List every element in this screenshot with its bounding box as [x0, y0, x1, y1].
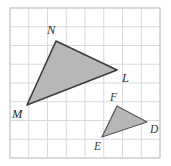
vertex-label-e: E: [93, 140, 101, 152]
triangle-def: [102, 106, 147, 137]
vertex-label-m: M: [11, 107, 23, 121]
vertex-label-l: L: [121, 71, 129, 85]
geometry-figure: NLM FDE: [0, 0, 171, 166]
vertex-label-n: N: [46, 23, 56, 37]
vertex-label-f: F: [109, 91, 118, 103]
vertex-label-d: D: [149, 123, 159, 135]
geometry-canvas: NLM FDE: [0, 0, 171, 166]
